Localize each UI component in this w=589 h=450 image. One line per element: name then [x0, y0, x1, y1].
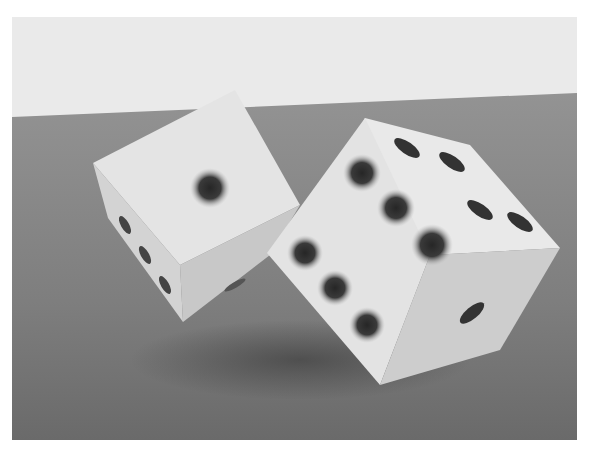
dice-photo — [0, 0, 589, 450]
